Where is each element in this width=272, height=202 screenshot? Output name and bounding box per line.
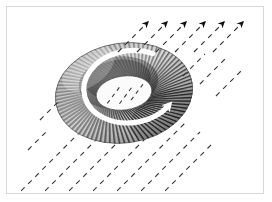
toroid-magnetic-field-diagram: [0, 0, 272, 202]
figure-root: Toroidal coil in an external magnetic fi…: [0, 0, 272, 202]
